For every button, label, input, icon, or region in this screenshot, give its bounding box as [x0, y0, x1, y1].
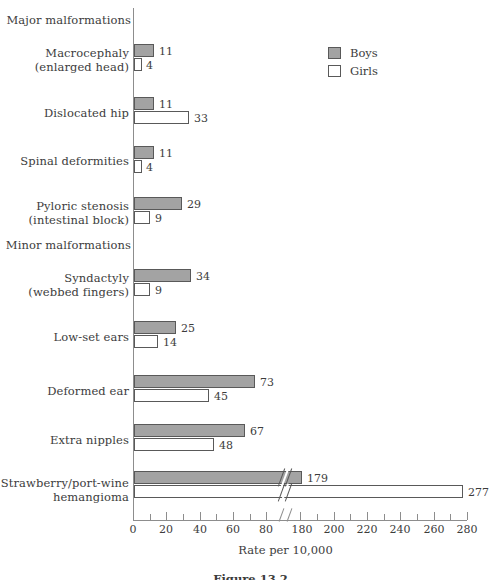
bar-girls-deformed-ear [134, 389, 209, 402]
category-label-line1: Low-set ears [53, 331, 129, 345]
axis-tick-280 [467, 512, 468, 520]
bar-value-boys-extra-nipples: 67 [250, 425, 264, 438]
axis-minor-tick-270 [450, 514, 451, 520]
category-label-spinal-deformities: Spinal deformities [20, 155, 129, 169]
category-label-deformed-ear: Deformed ear [47, 385, 129, 399]
bar-girls-spinal-deformities [134, 160, 142, 173]
axis-tick-label-80: 80 [259, 523, 273, 536]
category-label-dislocated-hip: Dislocated hip [44, 107, 129, 121]
bar-value-girls-macrocephaly: 4 [146, 59, 153, 72]
bar-value-boys-macrocephaly: 11 [159, 45, 173, 58]
category-label-macrocephaly: Macrocephaly (enlarged head) [35, 47, 129, 74]
category-label-extra-nipples: Extra nipples [50, 434, 129, 448]
axis-minor-tick-230 [384, 514, 385, 520]
bar-boys-extra-nipples [134, 424, 245, 437]
axis-minor-tick-250 [417, 514, 418, 520]
category-label-line2: (enlarged head) [35, 61, 129, 75]
category-label-syndactyly: Syndactyly (webbed fingers) [28, 272, 129, 299]
axis-tick-label-280: 280 [457, 523, 478, 536]
legend-label-boys: Boys [350, 46, 378, 60]
axis-tick-80 [266, 512, 267, 520]
bar-boys-deformed-ear [134, 375, 255, 388]
bar-value-girls-pyloric-stenosis: 9 [155, 212, 162, 225]
axis-tick-label-60: 60 [226, 523, 240, 536]
bar-value-girls-hemangioma: 277 [468, 486, 489, 499]
value-axis-line [133, 520, 467, 521]
bar-value-boys-spinal-deformities: 11 [159, 147, 173, 160]
bar-girls-dislocated-hip [134, 111, 189, 124]
bar-boys-hemangioma [134, 471, 302, 484]
legend-swatch-boys [328, 47, 341, 59]
category-label-line2: (intestinal block) [29, 214, 129, 228]
bar-value-boys-pyloric-stenosis: 29 [187, 198, 201, 211]
axis-tick-0 [133, 512, 134, 520]
axis-minor-tick-50 [216, 514, 217, 520]
axis-tick-label-200: 200 [324, 523, 345, 536]
category-label-hemangioma: Strawberry/port-wine hemangioma [1, 477, 129, 504]
figure-caption: Figure 13.2 [0, 572, 501, 580]
axis-tick-180 [300, 512, 301, 520]
bar-girls-macrocephaly [134, 58, 142, 71]
legend-label-girls: Girls [350, 64, 378, 78]
axis-tick-label-240: 240 [390, 523, 411, 536]
bar-value-girls-extra-nipples: 48 [219, 439, 233, 452]
axis-tick-260 [434, 512, 435, 520]
axis-tick-label-220: 220 [357, 523, 378, 536]
axis-tick-200 [334, 512, 335, 520]
bar-value-girls-spinal-deformities: 4 [146, 161, 153, 174]
section-heading-minor: Minor malformations [6, 239, 131, 252]
bar-value-boys-syndactyly: 34 [196, 270, 210, 283]
bar-boys-syndactyly [134, 269, 191, 282]
axis-tick-220 [367, 512, 368, 520]
category-label-pyloric-stenosis: Pyloric stenosis (intestinal block) [29, 200, 129, 227]
section-heading-major: Major malformations [6, 14, 131, 27]
axis-tick-label-260: 260 [424, 523, 445, 536]
bar-boys-macrocephaly [134, 44, 154, 57]
legend-item-boys: Boys [328, 44, 378, 62]
bar-girls-hemangioma [134, 485, 463, 498]
category-label-line1: Dislocated hip [44, 107, 129, 121]
bar-girls-extra-nipples [134, 438, 214, 451]
category-label-line1: Pyloric stenosis [29, 200, 129, 214]
axis-minor-tick-30 [183, 514, 184, 520]
bar-value-boys-deformed-ear: 73 [260, 376, 274, 389]
axis-minor-tick-190 [317, 514, 318, 520]
category-label-line1: Spinal deformities [20, 155, 129, 169]
legend-swatch-girls [328, 65, 341, 77]
axis-tick-label-0: 0 [130, 523, 137, 536]
category-label-line2: hemangioma [1, 491, 129, 505]
axis-tick-20 [166, 512, 167, 520]
category-label-line1: Macrocephaly [35, 47, 129, 61]
bar-value-girls-low-set-ears: 14 [163, 336, 177, 349]
axis-tick-60 [233, 512, 234, 520]
category-label-line1: Deformed ear [47, 385, 129, 399]
category-label-line2: (webbed fingers) [28, 286, 129, 300]
bar-boys-dislocated-hip [134, 97, 154, 110]
axis-minor-tick-210 [350, 514, 351, 520]
axis-tick-label-20: 20 [159, 523, 173, 536]
bar-chart: Major malformations Minor malformations … [0, 0, 501, 580]
value-axis-title: Rate per 10,000 [0, 543, 501, 557]
bar-girls-syndactyly [134, 283, 150, 296]
legend-item-girls: Girls [328, 62, 378, 80]
axis-tick-label-180: 180 [292, 523, 313, 536]
bar-value-boys-dislocated-hip: 11 [159, 98, 173, 111]
axis-tick-label-40: 40 [193, 523, 207, 536]
category-label-line1: Extra nipples [50, 434, 129, 448]
category-label-line1: Strawberry/port-wine [1, 477, 129, 491]
bar-boys-spinal-deformities [134, 146, 154, 159]
category-label-low-set-ears: Low-set ears [53, 331, 129, 345]
axis-minor-tick-10 [150, 514, 151, 520]
bar-boys-low-set-ears [134, 321, 176, 334]
bar-boys-pyloric-stenosis [134, 197, 182, 210]
bar-value-boys-low-set-ears: 25 [181, 322, 195, 335]
bar-value-girls-dislocated-hip: 33 [194, 112, 208, 125]
value-axis-title-text: Rate per 10,000 [168, 543, 332, 557]
bar-girls-low-set-ears [134, 335, 158, 348]
legend: Boys Girls [328, 44, 378, 80]
axis-tick-240 [400, 512, 401, 520]
bar-value-girls-deformed-ear: 45 [214, 390, 228, 403]
bar-value-boys-hemangioma: 179 [307, 472, 328, 485]
axis-tick-40 [200, 512, 201, 520]
category-label-line1: Syndactyly [28, 272, 129, 286]
